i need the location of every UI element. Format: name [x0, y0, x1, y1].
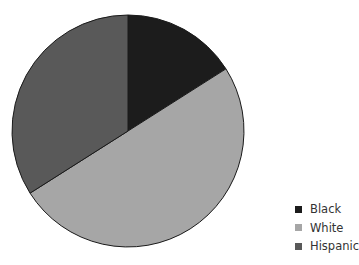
- pie-chart: [0, 0, 260, 265]
- legend: Black White Hispanic: [295, 200, 359, 256]
- legend-item-hispanic: Hispanic: [295, 237, 359, 256]
- legend-label: Black: [310, 202, 341, 216]
- legend-label: White: [310, 221, 343, 235]
- legend-swatch-icon: [295, 224, 302, 231]
- legend-item-white: White: [295, 219, 359, 238]
- legend-swatch-icon: [295, 243, 302, 250]
- legend-swatch-icon: [295, 206, 302, 213]
- legend-label: Hispanic: [310, 239, 359, 253]
- legend-item-black: Black: [295, 200, 359, 219]
